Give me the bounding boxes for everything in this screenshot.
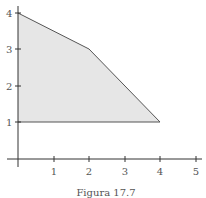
x-tick-label: 5 xyxy=(193,166,199,177)
x-tick-label: 2 xyxy=(86,166,92,177)
figure-caption: Figura 17.7 xyxy=(76,187,135,198)
x-tick-label: 3 xyxy=(122,166,128,177)
y-tick-label: 2 xyxy=(6,81,12,92)
y-tick-label: 4 xyxy=(6,8,12,19)
shaded-region xyxy=(18,13,160,122)
x-tick-label: 1 xyxy=(51,166,57,177)
chart: 4 3 2 1 1 2 3 4 5 Figura 17.7 xyxy=(0,0,206,198)
y-tick-label: 3 xyxy=(6,44,12,55)
x-tick-label: 4 xyxy=(157,166,163,177)
y-tick-label: 1 xyxy=(6,117,12,128)
